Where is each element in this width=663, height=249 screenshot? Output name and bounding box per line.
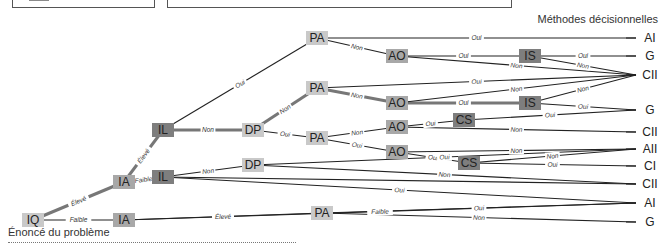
svg-text:AO: AO: [388, 120, 405, 134]
svg-text:CS: CS: [456, 113, 473, 127]
edge-label: Oui: [469, 34, 484, 42]
svg-text:Élevé: Élevé: [215, 212, 232, 221]
svg-text:PA: PA: [314, 206, 329, 220]
edge-label: Oui: [232, 77, 249, 91]
svg-text:Oui: Oui: [394, 186, 405, 194]
svg-text:DP: DP: [245, 158, 262, 172]
node-il: IL: [152, 123, 174, 137]
edge-label: Non: [575, 83, 591, 95]
node-pa: PA: [306, 31, 328, 45]
decision-method-cii: CII: [642, 125, 657, 139]
svg-text:Non: Non: [510, 126, 522, 133]
svg-text:Oui: Oui: [471, 34, 482, 41]
edge-label: Oui: [576, 52, 591, 60]
edge-label: Non: [437, 170, 452, 179]
edge-label: Non: [509, 125, 524, 133]
edge-label: Oui: [542, 111, 557, 120]
node-pa: PA: [306, 131, 328, 145]
node-il: IL: [152, 170, 174, 184]
edge-label: Faible: [66, 216, 92, 224]
edge-label: Élevé: [133, 144, 153, 167]
svg-text:IL: IL: [158, 123, 168, 137]
decision-method-g: G: [645, 103, 654, 117]
svg-text:Faible: Faible: [371, 207, 389, 215]
decision-method-g: G: [645, 215, 654, 229]
edge-label: Oui: [277, 129, 293, 139]
edge-label: Non: [575, 60, 591, 70]
edge-label: Oui: [392, 186, 407, 195]
svg-text:PA: PA: [309, 131, 324, 145]
svg-text:Non: Non: [510, 147, 522, 154]
edge-label: Oui: [471, 204, 486, 212]
node-dp: DP: [242, 158, 264, 172]
svg-text:Oui: Oui: [439, 153, 450, 160]
dotted-divider: [8, 242, 296, 243]
edge-label: Non: [349, 41, 365, 52]
svg-text:Non: Non: [438, 171, 451, 179]
svg-text:IL: IL: [158, 170, 168, 184]
svg-text:Oui: Oui: [545, 111, 556, 119]
edge-label: Oui: [349, 140, 365, 150]
outputs-layer: AIGCIIGCIIAIICICIIAIG: [626, 31, 658, 229]
svg-text:Oui: Oui: [578, 52, 589, 59]
edge-label: Non: [509, 84, 525, 94]
decision-method-cii: CII: [642, 68, 657, 82]
svg-text:AO: AO: [388, 145, 405, 159]
decision-method-ci: CI: [644, 159, 656, 173]
decision-method-ai: AI: [644, 31, 655, 45]
edge-label: Non: [200, 166, 216, 176]
svg-text:Faible: Faible: [70, 216, 88, 223]
edge-label: Non: [349, 128, 365, 138]
svg-text:Oui: Oui: [280, 130, 291, 138]
node-is: IS: [519, 49, 541, 63]
node-ao: AO: [386, 145, 408, 159]
edge-label: Oui: [456, 52, 471, 60]
decision-method-cii: CII: [642, 177, 657, 191]
svg-text:Oui: Oui: [471, 78, 482, 85]
edge-label: Non: [471, 213, 486, 221]
node-ao: AO: [386, 96, 408, 110]
svg-text:IA: IA: [118, 213, 129, 227]
edge-label: Oui: [437, 153, 452, 162]
node-cs: CS: [453, 113, 475, 127]
node-pa: PA: [306, 81, 328, 95]
svg-text:AO: AO: [388, 49, 405, 63]
decision-tree: ÉlevéFaibleÉlevéFaibleOuiNonNonNonOuiNon…: [0, 0, 663, 249]
edge-label: Faible: [367, 207, 393, 216]
svg-text:Oui: Oui: [458, 99, 469, 106]
svg-text:Non: Non: [576, 84, 590, 94]
decision-method-aii: AII: [643, 142, 658, 156]
edge-label: Non: [349, 90, 365, 101]
svg-text:Oui: Oui: [578, 102, 589, 110]
svg-text:PA: PA: [309, 81, 324, 95]
edge-label: Non: [545, 151, 560, 160]
node-cs: CS: [458, 156, 480, 170]
svg-text:IS: IS: [524, 96, 535, 110]
svg-text:Oui: Oui: [425, 119, 436, 127]
node-ia: IA: [113, 175, 135, 189]
svg-text:IS: IS: [524, 49, 535, 63]
decision-method-ai: AI: [644, 196, 655, 210]
svg-text:CS: CS: [461, 156, 478, 170]
svg-text:Non: Non: [546, 152, 559, 160]
edge-label: Oui: [545, 160, 560, 168]
decision-method-g: G: [645, 49, 654, 63]
edge-label: Non: [509, 146, 524, 154]
node-ao: AO: [386, 49, 408, 63]
svg-text:Non: Non: [510, 85, 523, 93]
problem-statement-caption: Énoncé du problème: [8, 226, 110, 238]
edge-label: Oui: [575, 102, 590, 111]
svg-text:Non: Non: [350, 42, 364, 52]
edge-label: Non: [201, 126, 216, 134]
edge-label: Élevé: [212, 211, 234, 220]
edge-label: Oui: [469, 77, 484, 86]
node-ao: AO: [386, 120, 408, 134]
svg-text:AO: AO: [388, 96, 405, 110]
svg-text:Non: Non: [202, 126, 214, 133]
node-is: IS: [519, 96, 541, 110]
node-pa: PA: [311, 206, 333, 220]
svg-text:Oui: Oui: [458, 52, 469, 59]
svg-text:Oui: Oui: [474, 204, 485, 211]
svg-text:Non: Non: [473, 214, 486, 221]
edge-label: Élevé: [67, 192, 91, 209]
